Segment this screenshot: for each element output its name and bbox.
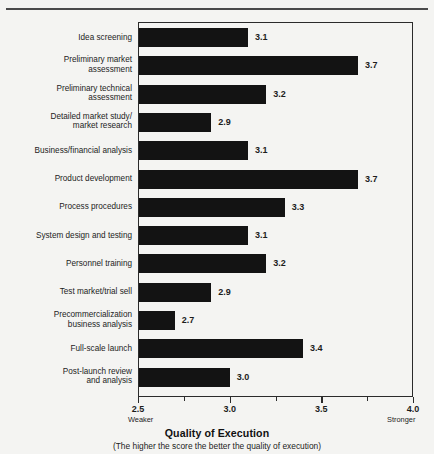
bar xyxy=(139,85,266,104)
bar-row: Idea screening3.1 xyxy=(0,28,434,47)
x-axis-tick-label: 4.0 xyxy=(407,404,420,414)
bar-category-label: Preliminary technical assessment xyxy=(0,84,132,103)
x-axis-caption: (The higher the score the better the qua… xyxy=(0,441,434,451)
bar xyxy=(139,198,285,217)
bar-row: Test market/trial sell2.9 xyxy=(0,283,434,302)
x-axis-tick-major xyxy=(230,397,231,403)
bar-category-label: Precommercialization business analysis xyxy=(0,310,132,329)
bar-category-label: Product development xyxy=(0,174,132,184)
header-divider-rule xyxy=(6,8,428,10)
bar xyxy=(139,339,303,358)
bar-value-label: 2.9 xyxy=(218,287,231,297)
x-axis-tick-major xyxy=(138,397,139,403)
bar-row: Preliminary technical assessment3.2 xyxy=(0,85,434,104)
bar xyxy=(139,56,358,75)
bar-value-label: 3.2 xyxy=(273,89,286,99)
bar-rows-container: Idea screening3.1Preliminary market asse… xyxy=(0,22,434,397)
bar-value-label: 3.3 xyxy=(292,202,305,212)
x-axis-tick-label: 2.5 xyxy=(132,404,145,414)
bar-value-label: 3.1 xyxy=(255,32,268,42)
bar-value-label: 3.0 xyxy=(237,372,250,382)
bar-value-label: 3.1 xyxy=(255,230,268,240)
bar-value-label: 3.7 xyxy=(365,174,378,184)
bar-row: Product development3.7 xyxy=(0,170,434,189)
bar-row: Personnel training3.2 xyxy=(0,254,434,273)
bar-category-label: Process procedures xyxy=(0,202,132,212)
bar-category-label: Personnel training xyxy=(0,259,132,269)
bar-category-label: System design and testing xyxy=(0,231,132,241)
bar-category-label: Idea screening xyxy=(0,33,132,43)
x-axis-tick-label: 3.0 xyxy=(223,404,236,414)
bar-value-label: 3.1 xyxy=(255,145,268,155)
x-axis-tick-minor xyxy=(367,397,368,401)
bar-value-label: 2.7 xyxy=(182,315,195,325)
bar xyxy=(139,283,211,302)
bar xyxy=(139,311,175,330)
bar-value-label: 3.7 xyxy=(365,60,378,70)
bar-row: Precommercialization business analysis2.… xyxy=(0,311,434,330)
bar-value-label: 3.4 xyxy=(310,343,323,353)
bar-row: Post-launch review and analysis3.0 xyxy=(0,368,434,387)
axis-end-label-stronger: Stronger xyxy=(387,415,415,424)
x-axis-tick-minor xyxy=(276,397,277,401)
bar-category-label: Post-launch review and analysis xyxy=(0,367,132,386)
axis-end-label-weaker: Weaker xyxy=(128,415,153,424)
bar-category-label: Full-scale launch xyxy=(0,344,132,354)
bar-value-label: 3.2 xyxy=(273,258,286,268)
x-axis-title: Quality of Execution xyxy=(0,427,434,439)
bar xyxy=(139,113,211,132)
x-axis-tick-major xyxy=(321,397,322,403)
bar xyxy=(139,141,248,160)
x-axis-tick-label: 3.5 xyxy=(315,404,328,414)
bar-row: Business/financial analysis3.1 xyxy=(0,141,434,160)
bar-category-label: Business/financial analysis xyxy=(0,146,132,156)
bar-row: System design and testing3.1 xyxy=(0,226,434,245)
x-axis-tick-major xyxy=(413,397,414,403)
bar xyxy=(139,170,358,189)
bar xyxy=(139,28,248,47)
bar-row: Process procedures3.3 xyxy=(0,198,434,217)
bar-chart-figure: Idea screening3.1Preliminary market asse… xyxy=(0,0,434,454)
x-axis-tick-minor xyxy=(184,397,185,401)
bar-category-label: Detailed market study/ market research xyxy=(0,112,132,131)
bar-row: Full-scale launch3.4 xyxy=(0,339,434,358)
bar-category-label: Preliminary market assessment xyxy=(0,55,132,74)
bar-value-label: 2.9 xyxy=(218,117,231,127)
x-axis xyxy=(138,397,413,398)
bar xyxy=(139,254,266,273)
bar-row: Detailed market study/ market research2.… xyxy=(0,113,434,132)
bar xyxy=(139,226,248,245)
bar-row: Preliminary market assessment3.7 xyxy=(0,56,434,75)
bar xyxy=(139,368,230,387)
bar-category-label: Test market/trial sell xyxy=(0,287,132,297)
